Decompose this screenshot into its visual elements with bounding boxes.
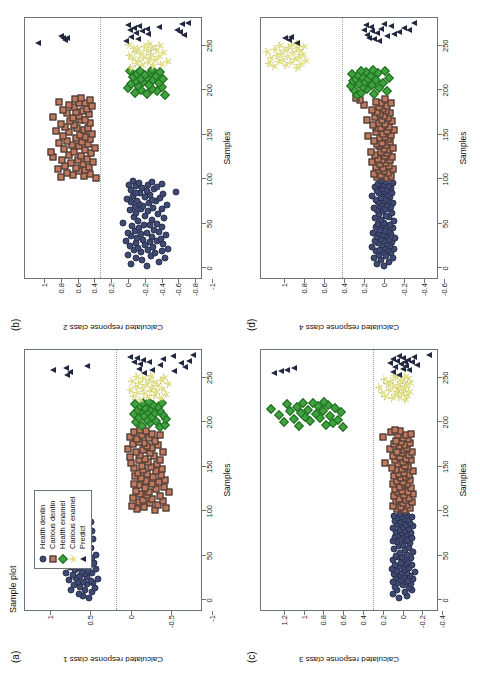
legend-marker-star-icon (68, 554, 78, 564)
legend-item: Carious dentin (48, 496, 58, 564)
data-point-triangle (64, 35, 70, 41)
data-point-square (163, 505, 170, 512)
x-tick-label: 150 (205, 461, 214, 474)
y-tick-mark (304, 279, 305, 283)
y-tick-mark (44, 279, 45, 283)
data-point-diamond (338, 423, 348, 433)
y-tick-mark (424, 279, 425, 283)
data-point-star (163, 57, 172, 66)
x-tick-label: 150 (441, 129, 450, 142)
y-tick-mark (323, 611, 324, 615)
data-point-square (129, 494, 136, 501)
data-point-circle (158, 180, 165, 187)
data-point-triangle (411, 354, 417, 360)
y-tick-mark (131, 611, 132, 615)
x-tick-label: 50 (205, 552, 214, 560)
legend-label: Carious enamel (68, 496, 78, 549)
data-point-triangle (288, 34, 294, 40)
data-point-triangle (160, 356, 166, 362)
data-point-triangle (140, 357, 146, 363)
x-tick-label: 100 (441, 173, 450, 186)
data-point-triangle (174, 27, 180, 33)
panel-a-xlabel: Samples (222, 349, 232, 611)
figure-canvas: (a) Sample plot Calculated response clas… (0, 0, 480, 673)
y-tick-mark (364, 279, 365, 283)
data-point-circle (164, 202, 171, 209)
data-point-square (368, 148, 375, 155)
legend-label: Predict (78, 526, 88, 549)
data-point-square (369, 106, 376, 113)
data-point-circle (161, 255, 168, 262)
data-point-circle (120, 219, 127, 226)
legend: Health dentinCarious dentinHealth enamel… (34, 490, 92, 569)
x-tick-mark (438, 267, 442, 268)
legend-item: Health enamel (58, 496, 68, 564)
panel-b-ylabel-wrap: Calculated response class 2 (24, 311, 202, 323)
x-tick-label: 250 (441, 39, 450, 52)
y-tick-mark (94, 279, 95, 283)
data-point-square (365, 132, 372, 139)
y-tick-mark (178, 279, 179, 283)
data-point-square (91, 145, 98, 152)
x-tick-mark (438, 421, 442, 422)
y-tick-mark (404, 279, 405, 283)
data-point-square (58, 120, 65, 127)
data-point-triangle (411, 20, 417, 26)
panel-b-ylabel: Calculated response class 2 (63, 323, 163, 332)
data-point-circle (93, 551, 100, 558)
data-point-square (364, 116, 371, 123)
data-point-circle (390, 179, 397, 186)
threshold-line (342, 18, 343, 278)
x-tick-label: 0 (205, 598, 214, 602)
data-point-square (65, 102, 72, 109)
threshold-line (116, 350, 117, 610)
legend-label: Health dentin (38, 505, 48, 549)
x-tick-mark (438, 377, 442, 378)
data-point-triangle (141, 370, 147, 376)
y-tick-mark (171, 611, 172, 615)
y-tick-mark (363, 611, 364, 615)
data-point-circle (396, 594, 403, 601)
data-point-triangle (294, 40, 300, 46)
panel-c-ylabel: Calculated response class 3 (299, 655, 399, 664)
data-point-square (381, 460, 388, 467)
data-point-circle (161, 215, 168, 222)
data-point-circle (412, 568, 419, 575)
marker-star (69, 555, 78, 564)
data-point-triangle (171, 368, 177, 374)
data-point-triangle (149, 367, 155, 373)
y-tick-mark (442, 611, 443, 615)
x-tick-label: 150 (441, 461, 450, 474)
data-point-triangle (426, 352, 432, 358)
panel-b-label: (b) (10, 319, 21, 331)
data-point-circle (160, 191, 167, 198)
data-point-triangle (185, 20, 191, 26)
panel-d-xlabel: Samples (458, 17, 468, 279)
x-tick-label: 100 (441, 505, 450, 518)
data-point-square (388, 99, 395, 106)
y-tick-mark (422, 611, 423, 615)
data-point-square (78, 153, 85, 160)
x-tick-mark (202, 134, 206, 135)
legend-item: Health dentin (38, 496, 48, 564)
x-tick-label: 200 (441, 84, 450, 97)
data-point-square (47, 148, 54, 155)
data-point-square (63, 169, 70, 176)
y-tick-mark (284, 279, 285, 283)
data-point-square (54, 166, 61, 173)
data-point-circle (130, 177, 137, 184)
legend-marker-diamond-icon (58, 554, 68, 564)
data-point-triangle (84, 363, 90, 369)
x-tick-mark (202, 89, 206, 90)
data-point-square (89, 103, 96, 110)
data-point-triangle (178, 360, 184, 366)
data-point-square (157, 432, 164, 439)
data-point-square (53, 128, 60, 135)
data-point-square (408, 430, 415, 437)
panel-c: (c) Calculated response class 3 1.210.80… (244, 339, 472, 665)
panel-c-ylabel-wrap: Calculated response class 3 (260, 643, 438, 655)
x-tick-mark (438, 134, 442, 135)
data-point-triangle (135, 36, 141, 42)
data-point-triangle (50, 367, 56, 373)
threshold-line (373, 350, 374, 610)
